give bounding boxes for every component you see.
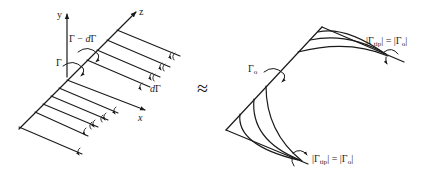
curl-arrows [78,52,175,155]
gamma-o-label: Γo [248,63,258,76]
gamma-label: Γ [56,57,62,68]
tip-condition-label-bottom: |Γtip| = |Γo| [312,153,353,166]
lifting-line-diagram: y z x Γ − dΓ Γ dΓ ≈ Γo [0,0,434,178]
gamma-minus-dgamma-label: Γ − dΓ [69,33,96,44]
tip-circulation-arrow-top [386,57,387,64]
approx-symbol: ≈ [197,77,208,99]
dgamma-label: dΓ [150,83,161,94]
horseshoe-vortex-system: y z x Γ − dΓ Γ dΓ [19,6,180,155]
x-axis [67,80,145,110]
y-axis-label: y [57,9,62,20]
x-axis-label: x [137,112,143,123]
z-axis [19,12,136,129]
continuous-vortex-sheet: Γo |Γtip| = |Γo| |Γtip| = |Γo| [226,27,407,166]
z-axis-label: z [139,6,144,17]
